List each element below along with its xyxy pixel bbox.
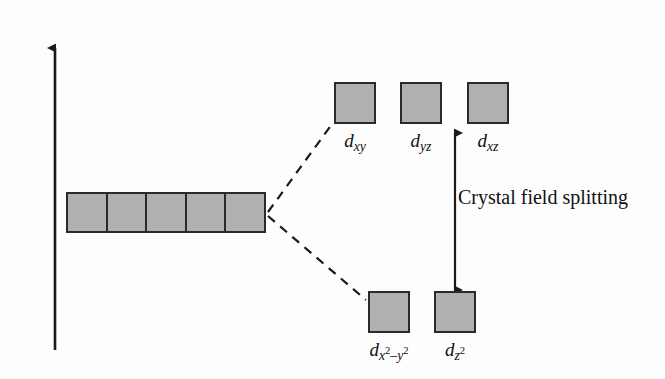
- orbital-box-degenerate-4: [187, 194, 227, 231]
- correlation-line-lower: [268, 216, 366, 300]
- orbital-symbol: d: [411, 130, 421, 151]
- orbital-box-dyz: [400, 82, 442, 124]
- orbital-box-degenerate-5: [226, 194, 264, 231]
- orbital-sup-2: 2: [460, 344, 465, 356]
- orbital-label-dz2: dz2: [434, 339, 476, 364]
- orbital-box-degenerate-1: [68, 194, 108, 231]
- degenerate-orbital-set: [66, 192, 266, 233]
- orbital-subscript: xz: [487, 139, 498, 154]
- orbital-symbol: d: [344, 130, 354, 151]
- orbital-label-dyz: dyz: [400, 130, 442, 155]
- orbital-box-degenerate-3: [147, 194, 187, 231]
- orbital-box-dx2-y2: [368, 291, 410, 333]
- orbital-symbol: d: [445, 339, 455, 360]
- orbital-box-dz2: [434, 291, 476, 333]
- orbital-sup-2b: 2: [403, 344, 408, 356]
- orbital-box-degenerate-2: [108, 194, 148, 231]
- orbital-subscript: z2: [454, 348, 465, 363]
- crystal-field-splitting-label: Crystal field splitting: [458, 186, 628, 209]
- orbital-label-dx2-y2: dx2–y2: [355, 339, 423, 364]
- orbital-subscript: xy: [354, 139, 366, 154]
- orbital-label-dxz: dxz: [467, 130, 509, 155]
- orbital-symbol: d: [369, 339, 379, 360]
- orbital-sub-minus-y: –y: [390, 348, 403, 363]
- orbital-subscript: yz: [420, 139, 431, 154]
- orbital-box-dxz: [467, 82, 509, 124]
- orbital-label-dxy: dxy: [334, 130, 376, 155]
- orbital-symbol: d: [478, 130, 488, 151]
- orbital-subscript: x2–y2: [379, 348, 409, 363]
- orbital-box-dxy: [334, 82, 376, 124]
- crystal-field-splitting-diagram: Energy dxy dyz dxz dx2–y2 dz2 Crystal fi…: [0, 0, 665, 379]
- correlation-line-upper: [268, 124, 332, 212]
